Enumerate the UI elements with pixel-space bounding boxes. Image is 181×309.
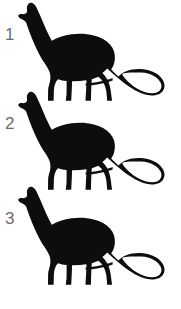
dinosaur-silhouette-icon bbox=[0, 0, 181, 103]
list-item: 2 bbox=[0, 89, 181, 192]
dinosaur-silhouette-icon bbox=[0, 184, 181, 287]
image-canvas: 1 2 3 bbox=[0, 0, 181, 309]
list-item: 1 bbox=[0, 0, 181, 103]
list-item: 3 bbox=[0, 184, 181, 287]
dinosaur-silhouette-icon bbox=[0, 89, 181, 192]
